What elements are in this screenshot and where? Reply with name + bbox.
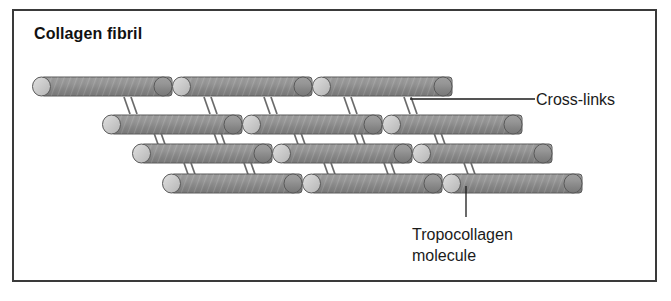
crosslink-group-row1-row2 (124, 97, 417, 114)
tropocollagen-row-1 (33, 77, 453, 96)
crosslinks-label: Cross-links (536, 90, 615, 110)
tropocollagen-row-4 (163, 174, 583, 193)
tropocollagen-label-line1: Tropocollagen (412, 226, 513, 243)
figure-panel: Collagen fibril (12, 9, 657, 282)
tropocollagen-row-2 (103, 115, 523, 134)
tropocollagen-label: Tropocollagen molecule (412, 224, 582, 266)
tropocollagen-label-line2: molecule (412, 247, 476, 264)
tropocollagen-row-3 (133, 144, 553, 163)
